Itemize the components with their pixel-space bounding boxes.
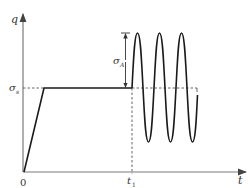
y-axis-label: q — [11, 13, 18, 26]
sigma-s-label: σ s — [9, 82, 19, 95]
load-diagram: q t 0 σ s σ A t 1 — [0, 0, 250, 188]
svg-text:1: 1 — [132, 181, 136, 188]
x-axis-label: t — [238, 174, 243, 187]
svg-text:A: A — [119, 61, 125, 68]
origin-label: 0 — [20, 177, 26, 188]
svg-text:s: s — [16, 88, 19, 95]
t1-label: t 1 — [127, 175, 136, 188]
oscillation-curve — [132, 33, 198, 142]
sigma-a-label: σ A — [113, 55, 125, 68]
ramp-plateau-curve — [24, 88, 132, 172]
